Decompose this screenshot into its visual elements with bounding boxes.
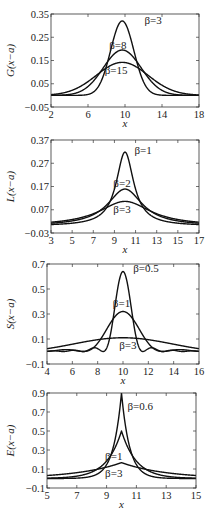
series-annotation: β=15 bbox=[105, 64, 128, 76]
y-axis-label: S(x−a) bbox=[4, 298, 17, 329]
y-axis-label: L(x−a) bbox=[4, 171, 17, 204]
x-tick-label: 8 bbox=[95, 366, 100, 377]
x-tick-label: 14 bbox=[168, 366, 179, 377]
x-tick-label: 5 bbox=[44, 490, 49, 501]
x-tick-label: 11 bbox=[131, 490, 141, 501]
series-annotation: β=1 bbox=[113, 297, 130, 309]
y-tick-label: 0.7 bbox=[32, 259, 45, 270]
y-tick-label: −0.1 bbox=[26, 483, 45, 494]
series-annotation: β=0.5 bbox=[133, 262, 159, 274]
series-annotation: β=3 bbox=[113, 203, 131, 215]
chart-gaussian: 26101418−0.050.050.150.250.35xG(x−a)β=3β… bbox=[4, 9, 204, 130]
figure-panels: 26101418−0.050.050.150.250.35xG(x−a)β=3β… bbox=[0, 0, 218, 520]
y-axis-label: G(x−a) bbox=[4, 44, 17, 77]
x-axis-label: x bbox=[122, 243, 128, 255]
x-tick-label: 6 bbox=[70, 366, 75, 377]
x-axis-label: x bbox=[118, 498, 124, 510]
series-annotation: β=0.6 bbox=[127, 400, 153, 412]
x-tick-label: 2 bbox=[48, 109, 53, 120]
y-tick-label: 0.17 bbox=[31, 181, 49, 192]
x-tick-label: 18 bbox=[194, 109, 205, 120]
x-tick-label: 7 bbox=[74, 490, 79, 501]
x-tick-label: 16 bbox=[194, 366, 205, 377]
plot-frame bbox=[51, 14, 199, 107]
x-tick-label: 13 bbox=[151, 235, 162, 246]
series-annotation: β=1 bbox=[135, 144, 152, 156]
y-tick-label: −0.03 bbox=[25, 228, 49, 239]
series-annotation: β=2 bbox=[113, 177, 130, 189]
y-tick-label: 0.07 bbox=[31, 204, 49, 215]
y-tick-label: −0.1 bbox=[26, 359, 45, 370]
y-tick-label: 0.37 bbox=[31, 135, 49, 146]
x-axis-label: x bbox=[120, 374, 126, 386]
series-annotation: β=3 bbox=[119, 339, 137, 351]
y-tick-label: 0.3 bbox=[32, 445, 45, 456]
x-axis-label: x bbox=[122, 117, 128, 129]
y-tick-label: 0.27 bbox=[31, 158, 49, 169]
y-tick-label: 0.5 bbox=[32, 426, 45, 437]
x-tick-label: 9 bbox=[104, 490, 109, 501]
y-tick-label: 0.9 bbox=[32, 388, 45, 399]
y-tick-label: 0.7 bbox=[32, 407, 45, 418]
x-tick-label: 15 bbox=[173, 235, 184, 246]
y-tick-label: 0.1 bbox=[32, 334, 45, 345]
series-annotation: β=1 bbox=[105, 450, 122, 462]
x-tick-label: 9 bbox=[112, 235, 117, 246]
x-tick-label: 6 bbox=[85, 109, 90, 120]
y-tick-label: 0.15 bbox=[31, 55, 49, 66]
series-annotation: β=3 bbox=[144, 14, 162, 26]
series-line bbox=[51, 21, 199, 95]
x-tick-label: 4 bbox=[44, 366, 50, 377]
y-tick-label: 0.1 bbox=[32, 464, 45, 475]
y-tick-label: 0.3 bbox=[32, 309, 45, 320]
x-tick-label: 7 bbox=[91, 235, 96, 246]
y-tick-label: 0.5 bbox=[32, 284, 45, 295]
y-tick-label: 0.05 bbox=[31, 78, 49, 89]
chart-lorentzian: 357911131517−0.030.070.170.270.37xL(x−a)… bbox=[4, 135, 204, 256]
x-tick-label: 15 bbox=[191, 490, 202, 501]
chart-exponential: 579111315−0.10.10.30.50.70.9xE(x−a)β=0.6… bbox=[4, 388, 201, 511]
series-annotation: β=8 bbox=[109, 39, 127, 51]
x-tick-label: 12 bbox=[143, 366, 154, 377]
y-tick-label: −0.05 bbox=[25, 102, 49, 113]
x-tick-label: 3 bbox=[48, 235, 53, 246]
y-axis-label: E(x−a) bbox=[4, 424, 17, 457]
x-tick-label: 11 bbox=[131, 235, 141, 246]
x-tick-label: 5 bbox=[70, 235, 75, 246]
x-tick-label: 17 bbox=[194, 235, 205, 246]
x-tick-label: 13 bbox=[161, 490, 172, 501]
y-tick-label: 0.35 bbox=[31, 9, 49, 20]
y-tick-label: 0.25 bbox=[31, 32, 49, 43]
series-annotation: β=3 bbox=[105, 467, 123, 479]
chart-sinc: 46810121416−0.10.10.30.50.7xS(x−a)β=0.5β… bbox=[4, 259, 204, 387]
x-tick-label: 14 bbox=[157, 109, 168, 120]
